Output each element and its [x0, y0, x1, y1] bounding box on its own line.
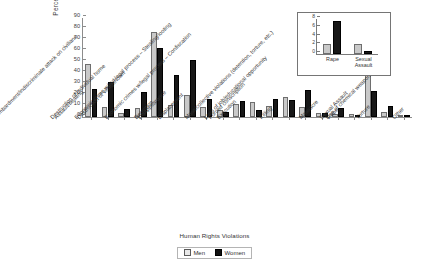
bar-women [273, 99, 279, 117]
legend-item-women[interactable]: Women [215, 249, 245, 256]
y-axis-tick-mark [83, 15, 86, 16]
inset-y-axis-tick-label: 0 [312, 48, 315, 55]
inset-y-axis-tick-label: 6 [312, 22, 315, 29]
inset-bar-group [317, 19, 348, 54]
bar-women [289, 100, 295, 117]
x-axis-line [82, 117, 412, 118]
inset-y-axis-tick-label: 2 [312, 39, 315, 46]
inset-bar-men [323, 44, 331, 54]
inset-y-axis-tick-label: 4 [312, 31, 315, 38]
legend-swatch-icon [215, 249, 222, 256]
legend-item-men[interactable]: Men [184, 249, 205, 256]
inset-category-labels: RapeSexual Assault [317, 56, 379, 74]
y-axis-tick-label: 60 [74, 44, 80, 52]
legend: Human Rights Violations MenWomen [0, 232, 429, 260]
bar-women [371, 91, 377, 117]
inset-y-axis-tick-mark [317, 16, 320, 17]
y-axis-tick-label: 30 [74, 77, 80, 85]
bar-women [240, 101, 246, 117]
y-axis-tick-label: 90 [74, 11, 80, 19]
bar-men [381, 112, 387, 117]
legend-entries: MenWomen [184, 249, 245, 256]
inset-category-label: Sexual Assault [348, 56, 379, 74]
bar-women [404, 115, 410, 117]
inset-bar-women [333, 21, 341, 54]
inset-category-label: Rape [317, 56, 348, 74]
bar-men [233, 104, 239, 117]
y-axis-tick-label: 40 [74, 66, 80, 74]
bar-men [283, 97, 289, 117]
legend-box: MenWomen [177, 247, 252, 260]
legend-item-label: Men [193, 250, 205, 256]
y-axis-tick-label: 80 [74, 22, 80, 30]
inset-bar-men [354, 44, 362, 54]
inset-plot-area: 02468 [316, 19, 378, 55]
x-axis-category-labels: Assault/beatingBombardment/indiscriminat… [82, 119, 412, 229]
inset-y-axis-tick-label: 8 [312, 13, 315, 20]
inset-bar-groups [317, 19, 378, 54]
legend-swatch-icon [184, 249, 191, 256]
legend-title: Human Rights Violations [0, 232, 429, 239]
bar-group [280, 18, 296, 117]
bar-group [396, 18, 412, 117]
bar-men [250, 102, 256, 117]
chart-figure: Percentage 0102030405060708090 Assault/b… [0, 0, 429, 270]
inset-bar-women [364, 51, 372, 54]
bar-men [118, 113, 124, 117]
inset-x-axis-line [316, 54, 378, 55]
inset-bar-group [348, 19, 379, 54]
inset-chart: 02468 RapeSexual Assault [297, 12, 391, 76]
y-axis-tick-label: 50 [74, 55, 80, 63]
bar-women [124, 109, 130, 117]
legend-item-label: Women [225, 250, 246, 256]
